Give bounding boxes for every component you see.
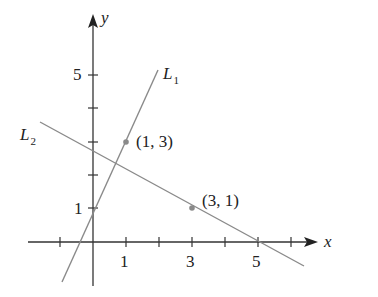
coordinate-plane-figure: y x 1 3 5 1 5 L1 L2 (1, 3) (3, 1) xyxy=(0,0,378,297)
y-axis-label: y xyxy=(101,9,109,26)
point-label-3-1: (3, 1) xyxy=(202,192,239,209)
line-label-l1-subscript: 1 xyxy=(173,74,179,86)
x-tick-label-5: 5 xyxy=(252,253,261,270)
point-3-1 xyxy=(189,205,195,211)
line-label-l2-subscript: 2 xyxy=(30,135,36,147)
line-label-l2: L2 xyxy=(20,126,36,143)
x-tick-label-1: 1 xyxy=(120,253,129,270)
point-1-3 xyxy=(123,139,129,145)
y-tick-label-1: 1 xyxy=(74,200,83,217)
point-label-1-3: (1, 3) xyxy=(136,133,173,150)
line-label-l2-name: L xyxy=(20,125,29,144)
y-tick-label-5: 5 xyxy=(73,66,82,83)
line-l1 xyxy=(62,70,158,282)
x-tick-label-3: 3 xyxy=(186,253,195,270)
x-axis-label: x xyxy=(324,233,332,250)
line-label-l1-name: L xyxy=(163,64,172,83)
line-label-l1: L1 xyxy=(163,65,179,82)
